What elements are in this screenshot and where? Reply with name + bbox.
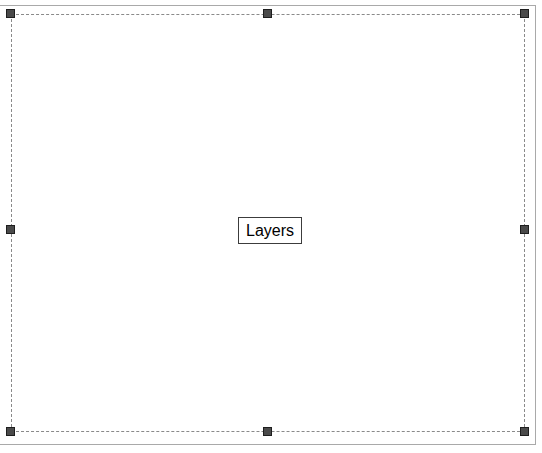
layers-label-text: Layers <box>246 223 294 239</box>
resize-handle-s[interactable] <box>263 427 272 436</box>
resize-handle-n[interactable] <box>263 9 272 18</box>
resize-handle-sw[interactable] <box>6 427 15 436</box>
layers-label-box[interactable]: Layers <box>238 217 302 244</box>
resize-handle-se[interactable] <box>520 427 529 436</box>
resize-handle-w[interactable] <box>6 225 15 234</box>
resize-handle-nw[interactable] <box>6 9 15 18</box>
resize-handle-ne[interactable] <box>520 9 529 18</box>
app-window: Layers <box>0 0 542 453</box>
resize-handle-e[interactable] <box>520 225 529 234</box>
